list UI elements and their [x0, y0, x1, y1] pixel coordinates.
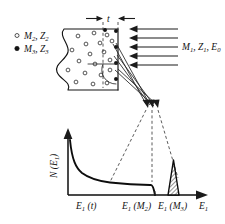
beam-arrow: [129, 35, 178, 42]
x-tick-label-e1-m3: E1 (M3): [157, 201, 187, 212]
bulk-atoms-group: [66, 31, 114, 86]
beam-label: M1, Z1, E0: [181, 42, 221, 53]
x-axis-label: E1: [198, 201, 208, 212]
beam-arrow: [129, 53, 178, 60]
legend: M2, Z2 M3, Z3: [15, 31, 49, 55]
thickness-marker: [86, 16, 135, 21]
spectrum-curve: [70, 140, 155, 195]
figure-container: t: [0, 0, 225, 224]
beam-arrow: [129, 62, 178, 69]
legend-marker-filled: [15, 46, 19, 50]
x-tick-label-e1-m2: E1 (M2): [121, 201, 151, 212]
legend-entry-m2: M2, Z2: [23, 31, 49, 42]
x-tick-label-e1-t: E1 (t): [75, 201, 96, 212]
projection-lines: [110, 110, 178, 182]
spectrum-axes: [64, 128, 208, 200]
surface-peak: [166, 158, 182, 196]
legend-entry-m3: M3, Z3: [23, 44, 49, 55]
rbs-figure: t: [0, 0, 225, 224]
scattered-rays: [113, 43, 160, 108]
beam-arrow: [129, 26, 178, 33]
thickness-label: t: [107, 14, 110, 24]
legend-marker-open: [15, 34, 19, 38]
incident-beam-arrows: [129, 26, 178, 69]
beam-arrow: [129, 44, 178, 51]
y-axis-label: N (E1): [49, 154, 60, 179]
